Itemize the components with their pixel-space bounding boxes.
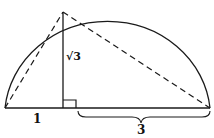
label-height: √3 xyxy=(66,50,81,63)
label-left-segment: 1 xyxy=(33,112,41,126)
dashed-chord-right xyxy=(63,12,210,108)
dashed-chord-left xyxy=(5,12,63,108)
geometry-diagram: 1 √3 3 xyxy=(0,0,214,138)
right-angle-marker xyxy=(63,100,76,108)
semicircle-arc xyxy=(5,21,210,108)
brace-right-segment xyxy=(78,111,210,123)
label-right-segment: 3 xyxy=(137,123,145,137)
